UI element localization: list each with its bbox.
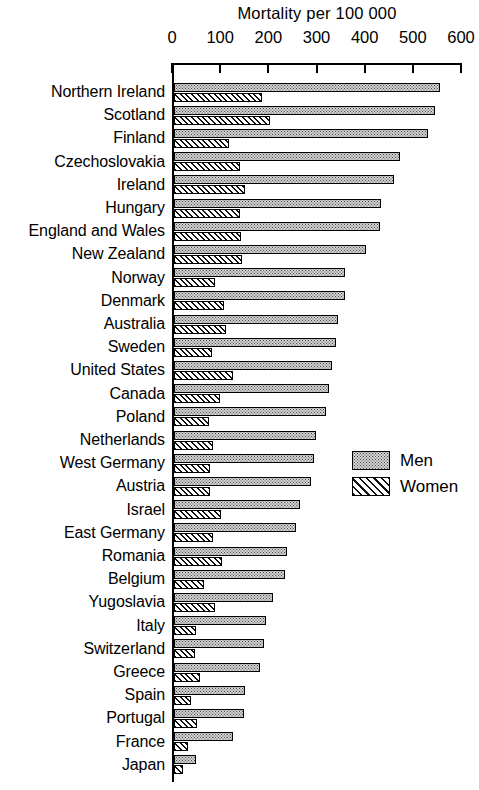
chart-row: Canada <box>0 383 479 406</box>
bar-men <box>174 199 381 208</box>
category-label: West Germany <box>60 453 165 473</box>
bar-women <box>174 185 245 194</box>
chart-row: Australia <box>0 313 479 336</box>
bar-men <box>174 755 196 764</box>
category-label: United States <box>70 360 165 380</box>
bar-women <box>174 626 196 635</box>
bar-women <box>174 162 240 171</box>
chart-row: Hungary <box>0 197 479 220</box>
bar-men <box>174 709 244 718</box>
bar-men <box>174 454 314 463</box>
bar-women <box>174 487 210 496</box>
bar-men <box>174 686 245 695</box>
bar-men <box>174 407 326 416</box>
chart-row: Greece <box>0 661 479 684</box>
category-label: France <box>116 732 165 752</box>
legend-label-women: Women <box>400 475 458 499</box>
category-label: Austria <box>116 476 165 496</box>
bar-women <box>174 533 213 542</box>
category-label: Belgium <box>108 569 165 589</box>
bar-women <box>174 255 242 264</box>
bar-women <box>174 116 270 125</box>
bar-men <box>174 547 287 556</box>
chart-row: Italy <box>0 615 479 638</box>
bar-men <box>174 222 380 231</box>
bar-women <box>174 464 210 473</box>
category-label: Czechoslovakia <box>54 152 165 172</box>
legend-swatch-women-icon <box>352 477 390 496</box>
category-label: Finland <box>113 128 165 148</box>
bar-men <box>174 338 336 347</box>
bar-women <box>174 394 220 403</box>
category-label: Romania <box>102 546 165 566</box>
bar-women <box>174 603 215 612</box>
legend-label-men: Men <box>400 449 433 473</box>
bar-women <box>174 649 195 658</box>
bar-men <box>174 291 345 300</box>
bar-women <box>174 719 197 728</box>
category-label: Australia <box>104 314 165 334</box>
bar-men <box>174 732 233 741</box>
legend-item-men: Men <box>352 449 472 475</box>
bar-women <box>174 139 229 148</box>
chart-row: Portugal <box>0 707 479 730</box>
bar-women <box>174 557 222 566</box>
bar-chart: Mortality per 100 000 010020030040050060… <box>0 0 479 790</box>
chart-row: Ireland <box>0 174 479 197</box>
chart-row: Romania <box>0 545 479 568</box>
bar-men <box>174 593 273 602</box>
chart-row: Belgium <box>0 568 479 591</box>
chart-row: Japan <box>0 754 479 777</box>
chart-row: United States <box>0 359 479 382</box>
chart-row: Czechoslovakia <box>0 151 479 174</box>
chart-row: Poland <box>0 406 479 429</box>
category-label: England and Wales <box>29 221 165 241</box>
bar-women <box>174 441 213 450</box>
category-label: Sweden <box>108 337 165 357</box>
category-label: Switzerland <box>83 639 165 659</box>
category-label: Ireland <box>117 175 165 195</box>
bar-women <box>174 673 200 682</box>
bar-men <box>174 152 400 161</box>
category-label: Poland <box>116 407 165 427</box>
bar-men <box>174 106 435 115</box>
bar-men <box>174 129 428 138</box>
chart-row: Sweden <box>0 336 479 359</box>
category-label: Greece <box>113 662 165 682</box>
bar-men <box>174 175 394 184</box>
category-label: Norway <box>111 268 165 288</box>
category-label: Yugoslavia <box>89 592 165 612</box>
bar-men <box>174 500 300 509</box>
category-label: Canada <box>110 384 165 404</box>
chart-plot-area: Northern IrelandScotlandFinlandCzechoslo… <box>0 0 479 790</box>
category-label: Portugal <box>106 708 165 728</box>
chart-row: Israel <box>0 499 479 522</box>
bar-men <box>174 477 311 486</box>
bar-women <box>174 696 191 705</box>
bar-men <box>174 663 260 672</box>
bar-women <box>174 348 212 357</box>
category-label: Netherlands <box>80 430 165 450</box>
bar-men <box>174 431 316 440</box>
chart-row: Denmark <box>0 290 479 313</box>
bar-women <box>174 325 226 334</box>
bar-men <box>174 361 332 370</box>
bar-women <box>174 301 224 310</box>
category-label: Israel <box>126 500 165 520</box>
bar-women <box>174 765 183 774</box>
bar-men <box>174 315 338 324</box>
chart-row: France <box>0 731 479 754</box>
bar-men <box>174 639 264 648</box>
chart-row: Switzerland <box>0 638 479 661</box>
chart-row: Scotland <box>0 104 479 127</box>
bar-men <box>174 523 296 532</box>
bar-men <box>174 570 285 579</box>
category-label: Japan <box>122 755 165 775</box>
bar-men <box>174 616 266 625</box>
bar-women <box>174 232 241 241</box>
chart-row: Finland <box>0 127 479 150</box>
legend-swatch-men-icon <box>352 451 390 470</box>
chart-row: East Germany <box>0 522 479 545</box>
category-label: Scotland <box>104 105 165 125</box>
bar-women <box>174 510 221 519</box>
